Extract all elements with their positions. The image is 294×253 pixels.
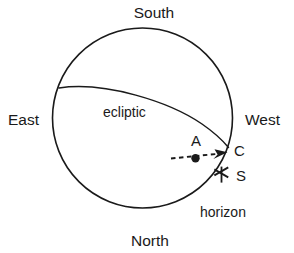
- label-point-a: A: [191, 132, 201, 149]
- label-west: West: [245, 111, 281, 128]
- celestial-body-dot-icon: [191, 154, 199, 162]
- label-point-s: S: [236, 167, 246, 184]
- label-point-c: C: [234, 142, 245, 159]
- label-north: North: [131, 232, 169, 249]
- label-south: South: [134, 4, 175, 21]
- label-ecliptic: ecliptic: [103, 104, 146, 120]
- celestial-sphere-diagram: South North East West ecliptic horizon A…: [0, 0, 294, 253]
- label-east: East: [8, 111, 40, 128]
- diagram-canvas: South North East West ecliptic horizon A…: [0, 0, 294, 253]
- label-horizon: horizon: [200, 204, 246, 220]
